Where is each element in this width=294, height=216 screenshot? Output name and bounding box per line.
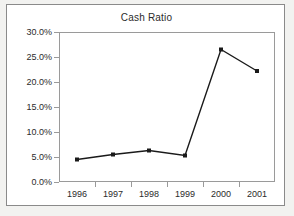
y-axis-label: 20.0% <box>6 77 52 87</box>
y-axis-tick <box>54 182 59 183</box>
x-axis-tick <box>203 182 204 187</box>
y-axis-label: 25.0% <box>6 52 52 62</box>
data-series-line <box>59 32 275 182</box>
data-point-marker <box>255 69 259 73</box>
data-point-marker <box>111 153 115 157</box>
x-axis-label: 1999 <box>165 189 205 199</box>
series-markers <box>75 48 259 162</box>
x-axis-label: 2000 <box>201 189 241 199</box>
series-polyline <box>77 50 257 160</box>
data-point-marker <box>75 158 79 162</box>
chart-card: Cash Ratio 0.0%5.0%10.0%15.0%20.0%25.0%3… <box>6 4 285 206</box>
x-axis-tick <box>239 182 240 187</box>
data-point-marker <box>183 154 187 158</box>
x-axis-tick <box>95 182 96 187</box>
x-axis-label: 1997 <box>93 189 133 199</box>
x-axis-label: 1996 <box>57 189 97 199</box>
x-axis-tick <box>167 182 168 187</box>
y-axis-label: 0.0% <box>6 177 52 187</box>
x-axis-label: 2001 <box>237 189 277 199</box>
y-axis-label: 5.0% <box>6 152 52 162</box>
y-axis-label: 30.0% <box>6 27 52 37</box>
data-point-marker <box>147 149 151 153</box>
x-axis-tick <box>131 182 132 187</box>
y-axis-label: 10.0% <box>6 127 52 137</box>
x-axis-label: 1998 <box>129 189 169 199</box>
data-point-marker <box>219 48 223 52</box>
y-axis-label: 15.0% <box>6 102 52 112</box>
chart-title: Cash Ratio <box>7 12 286 23</box>
